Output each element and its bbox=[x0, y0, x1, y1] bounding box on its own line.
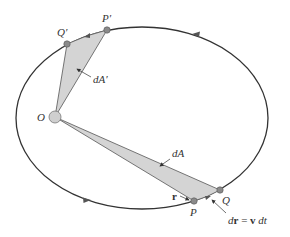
kepler-orbit-diagram: O P′ Q′ dA′ dA r Q P dr = v dt bbox=[0, 0, 290, 237]
sector-arc-arrow-icon bbox=[205, 196, 211, 200]
orbit-direction-arrow-icon bbox=[83, 198, 91, 204]
focus-point-O bbox=[49, 111, 61, 123]
point-P bbox=[191, 198, 197, 204]
label-dr-dt: dt bbox=[256, 214, 268, 226]
leader-dA bbox=[160, 159, 170, 166]
label-P: P bbox=[189, 206, 197, 218]
label-dA-prime: dA′ bbox=[93, 73, 108, 85]
label-dr-eq: = bbox=[238, 214, 250, 226]
label-dr-equals-v-dt: dr = v dt bbox=[228, 214, 268, 226]
label-Q-prime: Q′ bbox=[57, 26, 68, 38]
label-Q: Q bbox=[222, 194, 230, 206]
label-O: O bbox=[37, 111, 45, 123]
sector-dA bbox=[55, 117, 220, 201]
diagram-canvas: O P′ Q′ dA′ dA r Q P dr = v dt bbox=[0, 0, 290, 237]
point-Q-prime bbox=[64, 41, 70, 47]
point-Q bbox=[217, 187, 223, 193]
label-P-prime: P′ bbox=[101, 12, 112, 24]
label-dA: dA bbox=[172, 147, 185, 159]
label-r: r bbox=[172, 190, 177, 202]
point-P-prime bbox=[104, 27, 110, 33]
